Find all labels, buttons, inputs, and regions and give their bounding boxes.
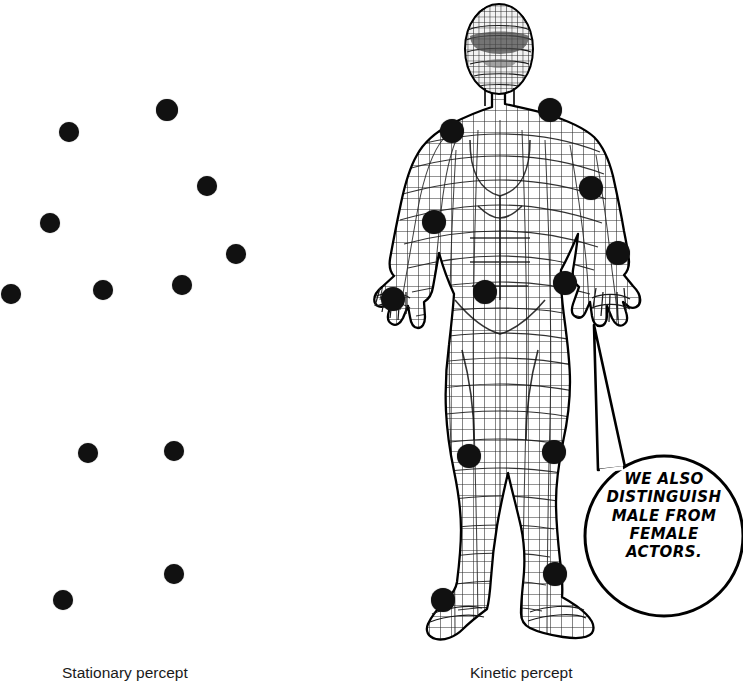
- bubble-line-4: FEMALE: [600, 525, 728, 543]
- bubble-line-2: DISTINGUISH: [600, 488, 728, 506]
- caption-stationary-percept: Stationary percept: [62, 659, 188, 687]
- bubble-line-1: WE ALSO: [600, 470, 728, 488]
- bubble-line-5: ACTORS.: [600, 543, 728, 561]
- speech-bubble-text: WE ALSO DISTINGUISH MALE FROM FEMALE ACT…: [600, 470, 728, 561]
- speech-bubble: [0, 0, 743, 687]
- biological-motion-figure: WE ALSO DISTINGUISH MALE FROM FEMALE ACT…: [0, 0, 743, 687]
- caption-kinetic-percept: Kinetic percept: [470, 659, 573, 687]
- bubble-line-3: MALE FROM: [600, 507, 728, 525]
- speech-bubble-tail: [594, 325, 625, 470]
